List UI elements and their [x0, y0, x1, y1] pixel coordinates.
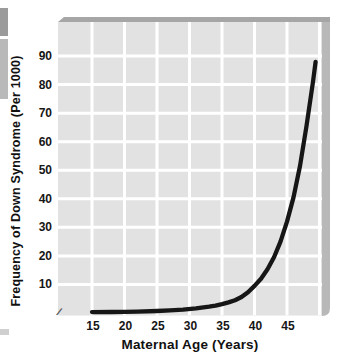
y-tick-label: 30 [28, 219, 52, 235]
y-tick-label: 50 [28, 162, 52, 178]
y-tick-label: 70 [28, 105, 52, 121]
plot-3d-right-edge [322, 22, 330, 316]
y-tick-label: 40 [28, 191, 52, 207]
x-axis-title: Maternal Age (Years) [58, 337, 322, 352]
y-tick-label: 90 [28, 48, 52, 64]
x-tick-label: 35 [210, 318, 236, 334]
x-tick-label: 45 [275, 318, 301, 334]
y-tick-label: 80 [28, 77, 52, 93]
x-tick-label: 40 [243, 318, 269, 334]
y-tick-label: 10 [28, 276, 52, 292]
plot-3d-top-edge [58, 17, 330, 22]
x-tick-label: 25 [145, 318, 171, 334]
axis-break-symbol: ∕∕ [58, 306, 59, 317]
y-tick-label: 60 [28, 134, 52, 150]
y-tick-label: 20 [28, 248, 52, 264]
textbook-figure: Frequency of Down Syndrome (Per 1000) 10… [0, 0, 339, 361]
down-syndrome-frequency-chart: Frequency of Down Syndrome (Per 1000) 10… [0, 0, 339, 361]
y-axis-title: Frequency of Down Syndrome (Per 1000) [9, 55, 23, 306]
x-tick-label: 30 [178, 318, 204, 334]
x-tick-label: 20 [113, 318, 139, 334]
x-tick-label: 15 [80, 318, 106, 334]
